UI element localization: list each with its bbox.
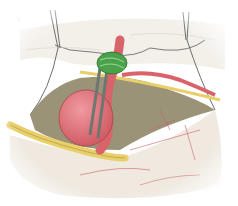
surgical-illustration (0, 0, 238, 206)
